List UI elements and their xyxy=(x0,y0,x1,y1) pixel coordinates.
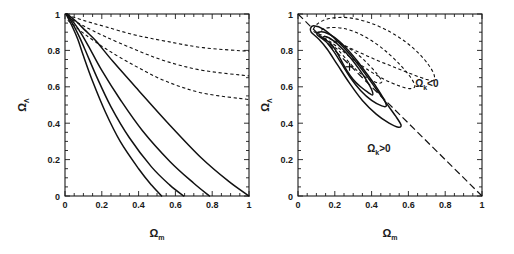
x-tick-label: 0.4 xyxy=(132,200,145,210)
curve-solid-2 xyxy=(66,14,183,196)
right-panel-tick-labels: 00.20.40.60.8100.20.40.60.81 xyxy=(280,10,484,211)
x-tick-label: 0 xyxy=(295,200,300,210)
left-xaxis-label: Ωm xyxy=(149,227,164,241)
y-tick-label: 0 xyxy=(55,192,60,202)
curve-solid-4 xyxy=(67,14,249,196)
curve-solid-1 xyxy=(66,14,162,196)
left-panel-curves xyxy=(66,14,249,196)
left-panel-ticks xyxy=(65,14,249,196)
y-tick-label: 0.8 xyxy=(280,46,293,56)
y-tick-label: 1 xyxy=(55,10,60,20)
x-tick-label: 0.2 xyxy=(329,200,342,210)
left-yaxis-label: ΩΛ xyxy=(16,98,30,112)
right-yaxis-label: ΩΛ xyxy=(259,98,273,112)
right-xaxis-label: Ωm xyxy=(382,227,397,241)
right-panel-contours xyxy=(310,17,434,127)
x-tick-label: 1 xyxy=(479,200,484,210)
curvature-annotation: Ωk>0 xyxy=(367,143,391,156)
omega-fan-panel: 00.20.40.60.8100.20.40.60.81 Ωm ΩΛ xyxy=(0,0,257,254)
y-tick-label: 0.8 xyxy=(47,46,60,56)
x-tick-label: 0.4 xyxy=(365,200,378,210)
y-tick-label: 0.2 xyxy=(47,155,60,165)
x-tick-label: 0 xyxy=(62,200,67,210)
curve-solid-contour-outer xyxy=(310,26,401,127)
x-tick-label: 0.6 xyxy=(402,200,415,210)
figure-container: 00.20.40.60.8100.20.40.60.81 Ωm ΩΛ Ωk<0Ω… xyxy=(0,0,514,254)
y-tick-label: 0.4 xyxy=(47,119,60,129)
confidence-contour-panel: Ωk<0Ωk>0 00.20.40.60.8100.20.40.60.81 Ωm… xyxy=(257,0,514,254)
x-tick-label: 0.6 xyxy=(169,200,182,210)
x-tick-label: 0.8 xyxy=(206,200,219,210)
y-tick-label: 0.6 xyxy=(47,82,60,92)
y-tick-label: 1 xyxy=(288,10,293,20)
y-tick-label: 0.6 xyxy=(280,82,293,92)
curve-dashed-1 xyxy=(67,15,249,51)
right-panel-svg: Ωk<0Ωk>0 00.20.40.60.8100.20.40.60.81 Ωm… xyxy=(257,0,514,254)
left-panel-svg: 00.20.40.60.8100.20.40.60.81 Ωm ΩΛ xyxy=(0,0,257,254)
y-tick-label: 0.4 xyxy=(280,119,293,129)
y-tick-label: 0 xyxy=(288,192,293,202)
curve-dashed-2 xyxy=(67,17,249,76)
x-tick-label: 0.8 xyxy=(439,200,452,210)
x-tick-label: 1 xyxy=(246,200,251,210)
curvature-annotation: Ωk<0 xyxy=(415,78,439,91)
x-tick-label: 0.2 xyxy=(96,200,109,210)
y-tick-label: 0.2 xyxy=(280,155,293,165)
left-plot-frame xyxy=(65,14,249,196)
